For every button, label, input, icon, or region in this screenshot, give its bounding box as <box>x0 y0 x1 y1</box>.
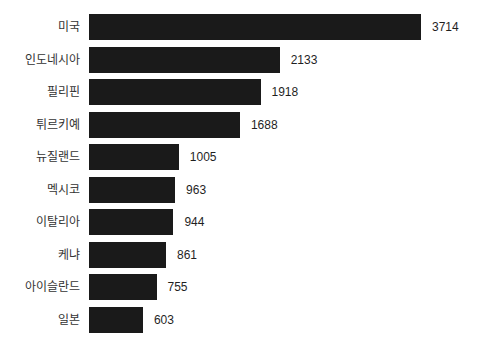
bar-row: 멕시코963 <box>0 177 484 203</box>
category-label: 아이슬란드 <box>0 281 80 293</box>
bar <box>89 209 173 235</box>
category-label: 필리핀 <box>0 86 80 98</box>
bar-row: 뉴질랜드1005 <box>0 144 484 170</box>
bar <box>89 274 157 300</box>
bar-row: 아이슬란드755 <box>0 274 484 300</box>
bar-row: 케냐861 <box>0 242 484 268</box>
value-label: 755 <box>168 281 188 293</box>
category-label: 이탈리아 <box>0 216 80 228</box>
bar-chart: 미국3714인도네시아2133필리핀1918튀르키예1688뉴질랜드1005멕시… <box>0 0 484 364</box>
bar-row: 튀르키예1688 <box>0 112 484 138</box>
category-label: 미국 <box>0 21 80 33</box>
value-label: 1918 <box>272 86 299 98</box>
category-label: 일본 <box>0 314 80 326</box>
bar-row: 일본603 <box>0 307 484 333</box>
bar-row: 인도네시아2133 <box>0 47 484 73</box>
category-label: 멕시코 <box>0 184 80 196</box>
bar-row: 미국3714 <box>0 14 484 40</box>
value-label: 3714 <box>432 21 459 33</box>
bar <box>89 112 240 138</box>
bar <box>89 144 179 170</box>
category-label: 뉴질랜드 <box>0 151 80 163</box>
value-label: 861 <box>177 249 197 261</box>
bar-row: 이탈리아944 <box>0 209 484 235</box>
bar-row: 필리핀1918 <box>0 79 484 105</box>
value-label: 944 <box>184 216 204 228</box>
bar <box>89 47 280 73</box>
bar <box>89 79 261 105</box>
bar <box>89 307 143 333</box>
bar <box>89 242 166 268</box>
value-label: 963 <box>186 184 206 196</box>
bar <box>89 14 421 40</box>
bar-rows: 미국3714인도네시아2133필리핀1918튀르키예1688뉴질랜드1005멕시… <box>0 14 484 333</box>
category-label: 케냐 <box>0 249 80 261</box>
value-label: 603 <box>154 314 174 326</box>
bar <box>89 177 175 203</box>
value-label: 1005 <box>190 151 217 163</box>
category-label: 인도네시아 <box>0 54 80 66</box>
value-label: 2133 <box>291 54 318 66</box>
value-label: 1688 <box>251 119 278 131</box>
category-label: 튀르키예 <box>0 119 80 131</box>
